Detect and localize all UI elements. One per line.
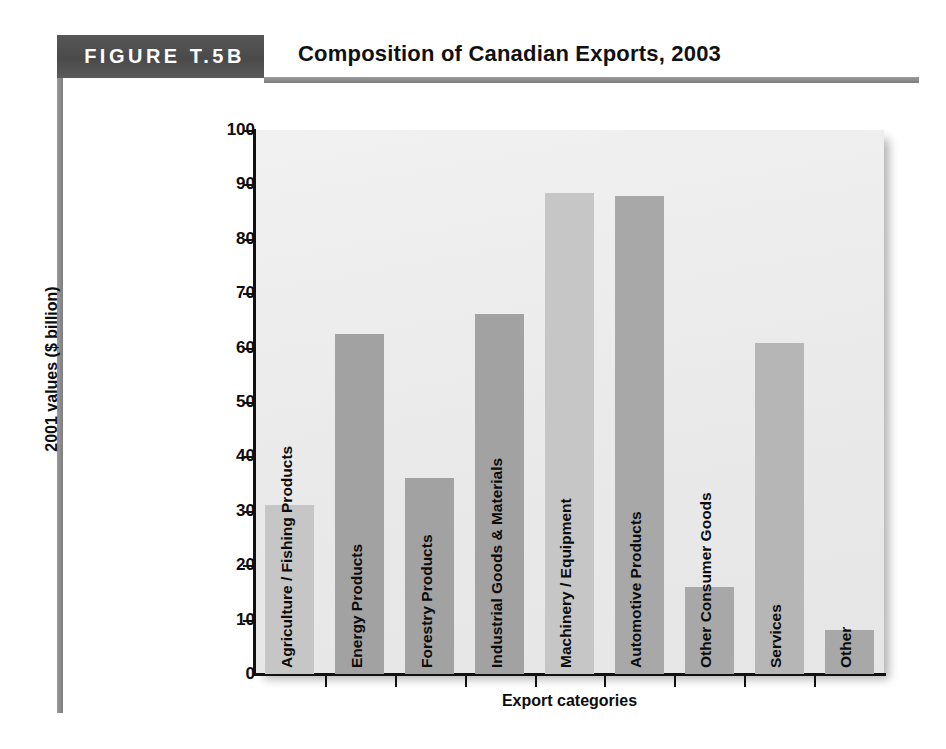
bar-group[interactable]: Forestry Products — [395, 130, 465, 674]
bar-group[interactable]: Machinery / Equipment — [535, 130, 605, 674]
x-tick-mark — [814, 676, 816, 687]
bar-category-label: Machinery / Equipment — [557, 498, 575, 668]
bar-category-label: Energy Products — [347, 544, 365, 668]
x-tick-mark — [325, 676, 327, 687]
y-tick-mark — [243, 184, 255, 186]
bar-category-label: Forestry Products — [417, 534, 435, 668]
y-tick-mark — [243, 402, 255, 404]
bar-category-label: Other Consumer Goods — [697, 492, 715, 668]
x-tick-mark — [395, 676, 397, 687]
bar-group[interactable]: Energy Products — [325, 130, 395, 674]
y-tick-mark — [243, 348, 255, 350]
y-tick-mark — [243, 511, 255, 513]
bar-category-label: Other — [837, 627, 855, 668]
bar-group[interactable]: Agriculture / Fishing Products — [255, 130, 325, 674]
x-tick-mark — [604, 676, 606, 687]
bar-group[interactable]: Other Consumer Goods — [674, 130, 744, 674]
bar-group[interactable]: Automotive Products — [604, 130, 674, 674]
bars-layer: Agriculture / Fishing ProductsEnergy Pro… — [255, 130, 884, 674]
bar-chart: 1009080706050403020100 2001 values ($ bi… — [0, 0, 946, 749]
x-tick-mark — [674, 676, 676, 687]
y-tick-mark — [243, 565, 255, 567]
bar-category-label: Services — [767, 604, 785, 668]
x-tick-mark — [465, 676, 467, 687]
y-tick-label: 0 — [211, 664, 255, 684]
bar-group[interactable]: Other — [814, 130, 884, 674]
y-tick-mark — [243, 456, 255, 458]
y-tick-mark — [243, 293, 255, 295]
x-tick-mark — [535, 676, 537, 687]
bar-group[interactable]: Services — [744, 130, 814, 674]
x-tick-mark — [744, 676, 746, 687]
y-axis-title: 2001 values ($ billion) — [43, 254, 61, 484]
y-tick-mark — [243, 130, 255, 132]
y-tick-mark — [243, 239, 255, 241]
y-tick: 0 — [185, 674, 255, 676]
bar-category-label: Automotive Products — [627, 511, 645, 668]
figure-page: FIGURE T.5B Composition of Canadian Expo… — [0, 0, 946, 749]
bar-category-label: Agriculture / Fishing Products — [277, 446, 295, 668]
x-axis-title: Export categories — [255, 692, 884, 710]
bar-category-label: Industrial Goods & Materials — [487, 458, 505, 668]
y-tick-mark — [243, 620, 255, 622]
bar-group[interactable]: Industrial Goods & Materials — [465, 130, 535, 674]
